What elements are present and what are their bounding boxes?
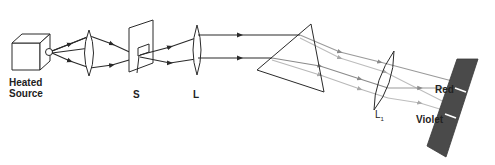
collimating-lens-icon	[193, 25, 201, 75]
focusing-lens-icon	[374, 51, 394, 110]
lens2-label-subscript: 1	[381, 116, 384, 122]
lens2-label: L1	[375, 109, 384, 125]
heated-source-label: Heated Source	[9, 77, 43, 99]
heated-source-cube-icon	[12, 34, 53, 70]
dispersed-rays	[272, 35, 456, 114]
slit-label: S	[133, 89, 140, 100]
diagram-canvas	[0, 0, 495, 165]
slit-screen-icon	[129, 20, 153, 73]
incident-rays	[52, 36, 136, 68]
red-label: Red	[435, 84, 454, 95]
violet-label: Violet	[416, 114, 443, 125]
spectroscope-diagram: Heated Source S L L1 Red Violet	[0, 0, 495, 165]
heated-source-label-line2: Source	[9, 88, 43, 99]
lens-label: L	[193, 89, 199, 100]
heated-source-label-line1: Heated	[9, 77, 43, 88]
